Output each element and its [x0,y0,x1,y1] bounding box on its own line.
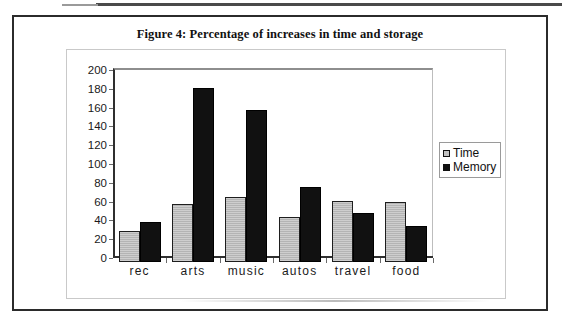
bar-group [119,74,161,262]
y-axis-tick-label: 60 [67,196,107,208]
bar-music-time [225,197,246,262]
square-outline-icon [443,150,450,157]
y-axis-tick-label: 140 [67,120,107,132]
y-axis-tick-label: 20 [67,233,107,245]
chart-area: 200180160140120100806040200 recartsmusic… [66,49,506,299]
x-axis-tick-label: rec [113,264,166,278]
bar-group [332,74,374,262]
bar-arts-memory [193,88,214,262]
x-axis-tick-label: food [380,264,433,278]
chart-legend: TimeMemory [439,142,501,178]
x-axis-tick-label: arts [166,264,219,278]
x-axis-tick-mark [220,258,221,263]
y-axis-tick-label: 160 [67,102,107,114]
plot-area: 200180160140120100806040200 recartsmusic… [113,68,433,264]
bar-autos-memory [300,187,321,262]
bar-travel-memory [353,213,374,262]
x-axis-tick-label: travel [326,264,379,278]
y-axis-tick-mark [109,183,113,184]
x-axis-tick-mark [433,258,434,263]
y-axis-tick-label: 120 [67,139,107,151]
y-axis-tick-mark [109,70,113,71]
scan-top-rule-fade [62,4,98,6]
bar-food-time [385,202,406,262]
bar-rec-memory [140,222,161,262]
figure-frame: Figure 4: Percentage of increases in tim… [12,15,548,311]
bar-travel-time [332,201,353,262]
bar-group [225,74,267,262]
y-axis-tick-label: 180 [67,83,107,95]
y-axis-tick-label: 100 [67,158,107,170]
legend-item-time[interactable]: Time [443,146,496,160]
figure-title: Figure 4: Percentage of increases in tim… [14,27,546,42]
x-axis-tick-mark [166,258,167,263]
bar-group [172,74,214,262]
y-axis-tick-mark [109,202,113,203]
y-axis-tick-label: 0 [67,252,107,264]
y-axis-tick-mark [109,145,113,146]
y-axis-tick-label: 200 [67,64,107,76]
x-axis-tick-mark [273,258,274,263]
y-axis-tick-mark [109,239,113,240]
bar-rec-time [119,231,140,262]
x-axis-tick-label: autos [273,264,326,278]
bar-group [279,74,321,262]
bar-group [385,74,427,262]
y-axis-tick-mark [109,108,113,109]
legend-item-memory[interactable]: Memory [443,160,496,174]
y-axis-tick-mark [109,164,113,165]
x-axis-tick-label: music [220,264,273,278]
y-axis-tick-label: 80 [67,177,107,189]
square-filled-icon [443,164,450,171]
scan-top-rule [96,3,562,6]
y-axis-tick-mark [109,126,113,127]
bar-music-memory [246,110,267,262]
y-axis-tick-mark [109,89,113,90]
bar-arts-time [172,204,193,262]
x-axis-tick-mark [326,258,327,263]
y-axis-tick-mark [109,258,113,259]
y-axis-tick-label: 40 [67,214,107,226]
bar-food-memory [406,226,427,262]
legend-item-label: Time [453,146,479,160]
x-axis-tick-mark [380,258,381,263]
legend-item-label: Memory [453,160,496,174]
y-axis-tick-mark [109,220,113,221]
bar-autos-time [279,217,300,262]
scan-bottom-shadow [180,300,490,302]
